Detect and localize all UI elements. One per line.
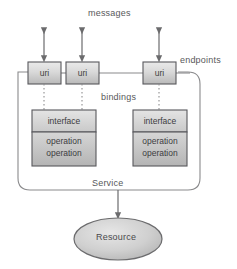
interface-left-operation-2: operation	[32, 148, 96, 158]
bindings-label: bindings	[101, 92, 136, 102]
message-arrows	[44, 31, 159, 59]
interface-left-operation-1: operation	[32, 136, 96, 146]
endpoint-uri-2-label: uri	[66, 68, 99, 78]
interface-right-operation-1: operation	[133, 136, 187, 146]
interface-right-operation-2: operation	[133, 148, 187, 158]
endpoint-uri-3-label: uri	[143, 68, 176, 78]
service-architecture-diagram: messages endpoints bindings Service Reso…	[0, 0, 237, 269]
endpoints-label: endpoints	[180, 55, 221, 65]
messages-label: messages	[88, 8, 131, 18]
resource-label: Resource	[96, 232, 136, 242]
endpoint-uri-1-label: uri	[28, 68, 61, 78]
interface-left-header: interface	[32, 116, 96, 126]
interface-right-header: interface	[133, 116, 187, 126]
diagram-canvas	[0, 0, 237, 269]
service-label: Service	[92, 178, 123, 188]
